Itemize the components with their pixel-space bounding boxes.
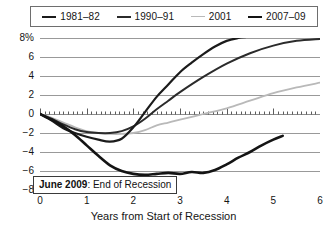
- x-tick-label-2: 2: [121, 196, 145, 206]
- legend-swatch-2001: [191, 16, 205, 17]
- y-tick-label-4: 4: [0, 71, 34, 81]
- legend-item-2007-09: 2007–09: [248, 12, 306, 22]
- annotation-rest-text: : End of Recession: [87, 179, 171, 190]
- chart-legend: 1981–82 1990–91 2001 2007–09: [30, 6, 318, 27]
- y-tick-label--2: −2: [0, 128, 34, 138]
- x-tick-label-3: 3: [168, 196, 192, 206]
- x-tick-label-4: 4: [215, 196, 239, 206]
- y-tick-label--8: −8: [0, 185, 34, 195]
- y-tick-label-6: 6: [0, 52, 34, 62]
- recession-end-annotation: June 2009: End of Recession: [33, 176, 177, 194]
- legend-label-1981-82: 1981–82: [60, 12, 100, 22]
- series-line-2001: [40, 83, 320, 134]
- legend-swatch-1981-82: [42, 16, 56, 18]
- x-axis-title: Years from Start of Recession: [0, 211, 327, 222]
- legend-swatch-1990-91: [117, 16, 131, 18]
- x-tick-label-0: 0: [28, 196, 52, 206]
- plot-area: [40, 38, 320, 190]
- x-tick-label-1: 1: [75, 196, 99, 206]
- gridlines: [40, 39, 320, 191]
- x-tick-label-6: 6: [308, 196, 327, 206]
- series-lines: [40, 38, 320, 175]
- legend-label-2001: 2001: [209, 12, 232, 22]
- x-tick-label-5: 5: [261, 196, 285, 206]
- chart-svg: [40, 38, 320, 190]
- legend-label-1990-91: 1990–91: [135, 12, 175, 22]
- y-tick-label--6: −6: [0, 166, 34, 176]
- y-tick-label-0: 0: [0, 109, 34, 119]
- series-line-2007-09: [40, 114, 283, 175]
- chart-figure: 1981–82 1990–91 2001 2007–09 8%6420−2−4−…: [0, 0, 327, 229]
- zero-axis-with-ticks: [41, 109, 321, 115]
- legend-item-1990-91: 1990–91: [117, 12, 175, 22]
- legend-swatch-2007-09: [248, 16, 262, 18]
- legend-item-1981-82: 1981–82: [42, 12, 100, 22]
- annotation-bold-text: June 2009: [39, 179, 87, 190]
- legend-label-2007-09: 2007–09: [266, 12, 306, 22]
- y-tick-label-2: 2: [0, 90, 34, 100]
- y-tick-label--4: −4: [0, 147, 34, 157]
- y-tick-label-8: 8%: [0, 33, 34, 43]
- legend-item-2001: 2001: [191, 12, 232, 22]
